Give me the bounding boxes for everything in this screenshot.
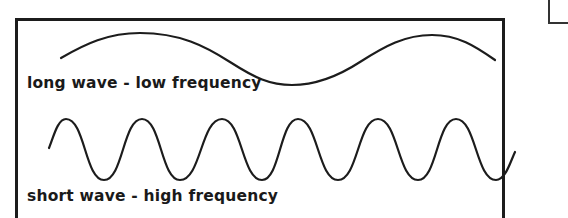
short-wave-label: short wave - high frequency bbox=[27, 189, 278, 205]
long-wave-label: long wave - low frequency bbox=[27, 76, 262, 92]
short-wave-curve bbox=[49, 119, 515, 180]
